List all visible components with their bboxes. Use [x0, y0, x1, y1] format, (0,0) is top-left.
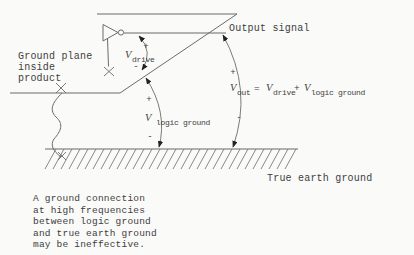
equation-vdrive-sub: drive [273, 88, 296, 97]
caption-line: and true earth ground [33, 228, 157, 239]
grounding-diagram-figure: Output signal Ground plane inside produc… [0, 0, 414, 255]
ground-plane-label-line2: inside [18, 62, 55, 73]
v-logic-label-v: V [145, 112, 153, 123]
caption-line: may be ineffective. [33, 239, 145, 250]
v-logic-minus-sign: - [147, 132, 152, 142]
v-logic-plus-sign: + [146, 95, 151, 105]
caption-block: A ground connection at high frequencies … [33, 193, 157, 250]
equation-vlogic-sub: logic ground [311, 88, 366, 97]
inverter-gate-icon [103, 25, 118, 42]
caption-line: A ground connection [33, 193, 145, 204]
ground-plane-label-line1: Ground plane [18, 51, 92, 62]
caption-line: between logic ground [33, 216, 151, 227]
equation-vout-sub: out [237, 88, 251, 97]
inverter-ground-stub [108, 39, 109, 67]
v-drive-plus-sign: + [143, 42, 148, 52]
diagram-canvas: Output signal Ground plane inside produc… [0, 0, 414, 255]
v-logic-label-sub: logic ground [156, 118, 211, 127]
v-out-minus-sign: - [236, 113, 241, 123]
ground-plane-x-mark [56, 83, 66, 93]
equation-equals-sign: = [254, 83, 260, 94]
v-out-equation: V out = V drive + V logic ground [230, 82, 366, 97]
v-drive-minus-sign: - [133, 62, 138, 72]
earth-ground-hatching [45, 149, 296, 169]
ground-plane-label-line3: product [18, 73, 61, 84]
caption-line: at high frequencies [33, 205, 145, 216]
v-out-plus-sign: + [230, 68, 235, 78]
output-signal-label: Output signal [229, 23, 310, 34]
earth-connection-wavy-wire [52, 93, 62, 157]
equation-plus-sign: + [294, 83, 300, 94]
inverter-bubble-icon [118, 30, 123, 35]
true-earth-ground-label: True earth ground [267, 173, 372, 184]
inverter-ground-x-mark [104, 67, 114, 76]
